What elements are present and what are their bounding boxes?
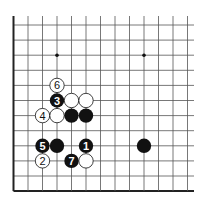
- black-stone: [50, 139, 64, 153]
- white-stone-icon: [64, 93, 78, 107]
- white-stone-icon: [50, 108, 64, 122]
- go-board-diagram: 6345127: [0, 0, 208, 202]
- move-number-label: 4: [39, 110, 45, 122]
- white-stone-icon: [79, 154, 93, 168]
- white-stone-6: 6: [50, 78, 64, 92]
- black-stone: [137, 139, 151, 153]
- move-number-label: 2: [39, 155, 45, 167]
- move-number-label: 3: [54, 95, 60, 107]
- black-stone-7: 7: [64, 154, 78, 168]
- stones-layer: 6345127: [35, 78, 151, 168]
- black-stone-5: 5: [35, 139, 49, 153]
- black-stone-icon: [79, 108, 93, 122]
- black-stone-icon: [50, 139, 64, 153]
- black-stone-3: 3: [50, 93, 64, 107]
- move-number-label: 1: [83, 140, 89, 152]
- white-stone: [79, 93, 93, 107]
- white-stone: [50, 108, 64, 122]
- black-stone: [64, 108, 78, 122]
- star-point-icon: [55, 53, 59, 57]
- white-stone-2: 2: [35, 154, 49, 168]
- move-number-label: 7: [68, 155, 74, 167]
- black-stone: [79, 108, 93, 122]
- black-stone-icon: [137, 139, 151, 153]
- white-stone: [79, 154, 93, 168]
- white-stone-icon: [79, 93, 93, 107]
- white-stone-4: 4: [35, 108, 49, 122]
- star-point-icon: [142, 53, 146, 57]
- move-number-label: 5: [39, 140, 45, 152]
- black-stone-1: 1: [79, 139, 93, 153]
- white-stone: [64, 93, 78, 107]
- black-stone-icon: [64, 108, 78, 122]
- move-number-label: 6: [54, 79, 60, 91]
